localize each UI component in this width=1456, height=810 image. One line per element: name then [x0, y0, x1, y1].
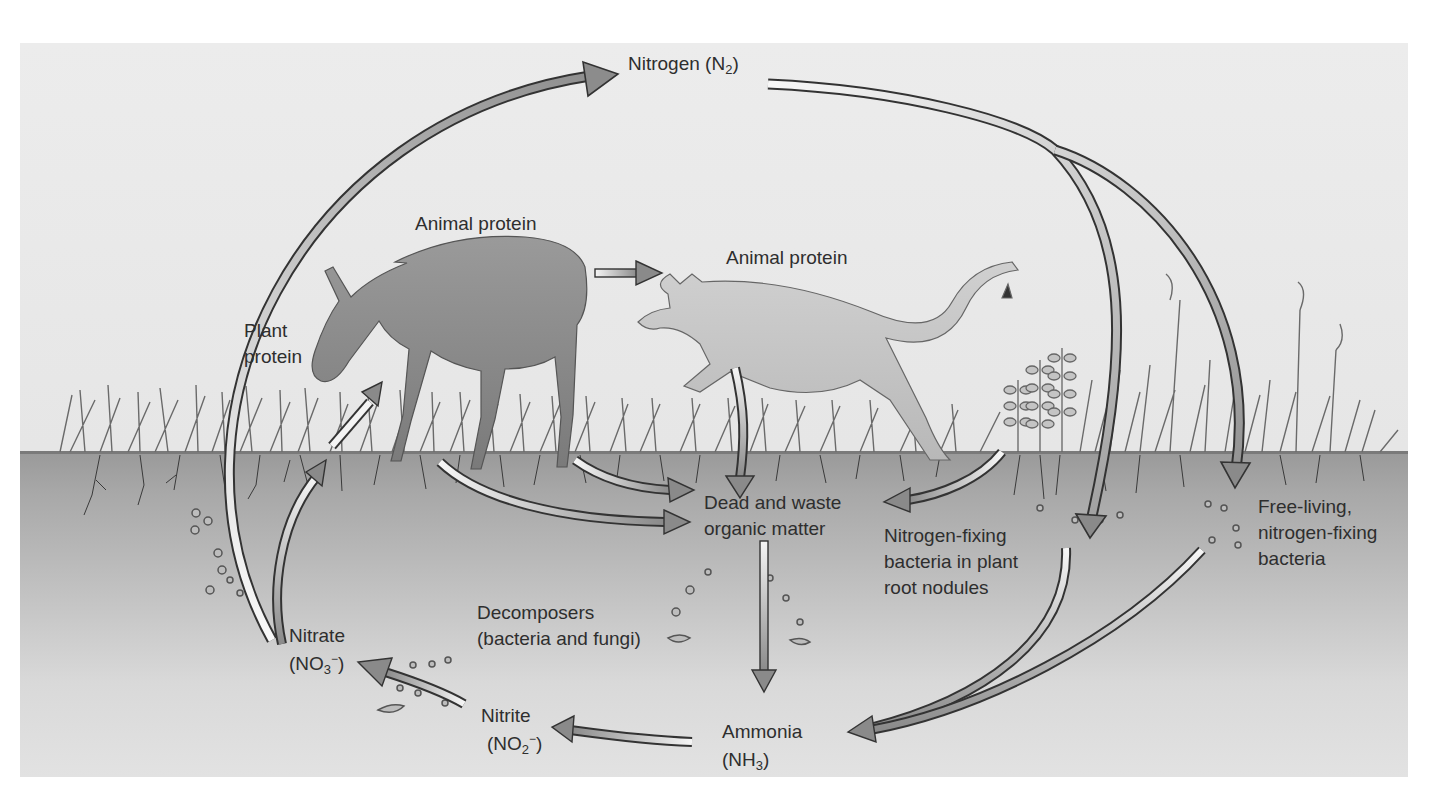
label-free-living-bacteria: Free-living, nitrogen-fixing bacteria — [1258, 494, 1377, 572]
label-nitrogen: Nitrogen (N2) — [628, 52, 739, 76]
plant-waste-arrow — [440, 462, 690, 534]
decomposition-arrow — [752, 541, 776, 692]
label-animal-protein-deer: Animal protein — [415, 212, 536, 236]
label-animal-protein-cougar: Animal protein — [726, 246, 847, 270]
arrows-layer — [0, 0, 1456, 810]
predation-arrow — [595, 261, 662, 285]
label-decomposers: Decomposers (bacteria and fungi) — [477, 600, 641, 652]
label-nitrite: Nitrite (NO2−) — [481, 702, 542, 758]
label-dead-waste-organic-matter: Dead and waste organic matter — [704, 490, 841, 542]
fixation-arrows — [768, 84, 1250, 538]
deer-waste-arrow — [575, 460, 694, 502]
label-nitrate: Nitrate (NO3−) — [289, 622, 345, 678]
legume-waste-arrow — [884, 452, 1002, 512]
nitrogen-cycle-diagram: Nitrogen (N2) Animal protein Animal prot… — [0, 0, 1456, 810]
cougar-waste-arrow — [726, 368, 754, 498]
label-nodule-bacteria: Nitrogen-fixing bacteria in plant root n… — [884, 523, 1018, 601]
nitrification-2-arrow — [358, 658, 464, 704]
grazing-arrow — [332, 382, 382, 446]
label-ammonia: Ammonia (NH3) — [722, 718, 802, 774]
uptake-arrow — [277, 460, 326, 644]
nitrification-1-arrow — [552, 716, 692, 742]
label-plant-protein: Plant protein — [244, 318, 302, 370]
